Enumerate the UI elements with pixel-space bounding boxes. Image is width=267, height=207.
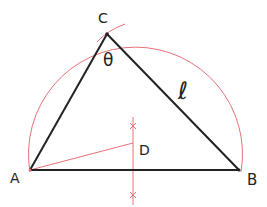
label-d: D xyxy=(139,142,150,158)
point-c xyxy=(105,32,109,36)
label-a: A xyxy=(10,170,20,186)
diagram-canvas: C A B D θ ℓ xyxy=(0,0,267,207)
label-b: B xyxy=(247,171,257,189)
angle-theta-label: θ xyxy=(103,50,113,70)
triangle-abc xyxy=(30,34,239,170)
triangle-circumcircle-diagram: C A B D θ ℓ xyxy=(0,0,267,207)
side-length-label: ℓ xyxy=(177,77,188,105)
point-a xyxy=(29,169,32,172)
circumcircle-arc xyxy=(28,47,242,172)
segment-ad xyxy=(30,143,133,170)
point-b xyxy=(238,169,241,172)
label-c: C xyxy=(98,10,108,26)
